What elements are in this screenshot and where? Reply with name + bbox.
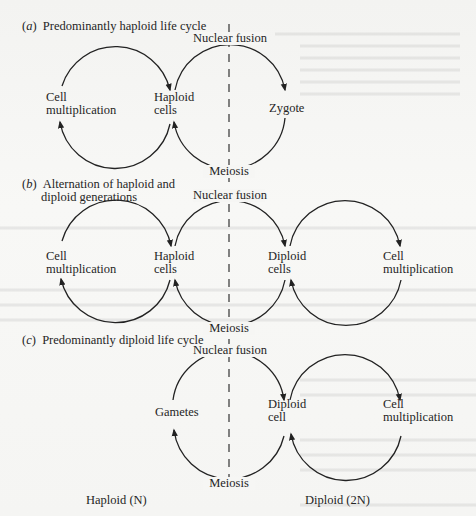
panel-c-cycle1-bottom-arrow	[174, 430, 284, 479]
panel-b-node-cell-multiplication-right: Cell multiplication	[383, 250, 453, 276]
panel-c-node-gametes: Gametes	[155, 406, 199, 419]
panel-c-nuclear-fusion-label: Nuclear fusion	[193, 344, 265, 357]
panel-b-node-cell-multiplication-left: Cell multiplication	[46, 250, 116, 276]
panel-b-cycle2-bottom-arrow	[175, 280, 285, 325]
diploid-region-label: Diploid (2N)	[305, 494, 370, 507]
node-line: cells	[268, 263, 306, 276]
panel-a-cycle1-bottom-arrow	[60, 122, 170, 169]
node-line: multiplication	[46, 263, 116, 276]
panel-a-meiosis-label: Meiosis	[203, 165, 255, 178]
panel-a-node-zygote: Zygote	[269, 102, 304, 115]
panel-c-cycle2-bottom-arrow	[291, 434, 401, 481]
panel-a-marker: a	[26, 19, 32, 33]
node-line: cells	[154, 104, 194, 117]
node-line: Gametes	[155, 406, 199, 419]
panel-b-cycle3-bottom-arrow	[291, 280, 401, 325]
panel-b-node-diploid-cells: Diploid cells	[268, 250, 306, 276]
panel-c-meiosis-label: Meiosis	[203, 477, 255, 490]
panel-a-node-haploid-cells: Haploid cells	[154, 91, 194, 117]
panel-c-cycle2-top-arrow	[290, 355, 400, 400]
panel-c-node-diploid-cell: Diploid cell	[268, 398, 306, 424]
panel-a-cycle1-top-arrow	[62, 47, 170, 90]
panel-b-nuclear-fusion-label: Nuclear fusion	[193, 189, 265, 202]
panel-c-node-cell-multiplication: Cell multiplication	[383, 398, 453, 424]
panel-c-marker: c	[26, 333, 32, 347]
panel-b-title-line1: Alternation of haploid and	[43, 177, 175, 191]
node-line: cells	[154, 263, 194, 276]
node-line: Zygote	[269, 102, 304, 115]
panel-b-cycle1-top-arrow	[62, 200, 171, 246]
panel-a-title: (a) Predominantly haploid life cycle	[22, 20, 206, 33]
panel-b-title: (b) Alternation of haploid and diploid g…	[22, 178, 175, 204]
haploid-region-label: Haploid (N)	[86, 494, 147, 507]
node-line: multiplication	[46, 104, 116, 117]
node-line: cell	[268, 411, 306, 424]
panel-a-cycle2-top-arrow	[175, 45, 285, 90]
panel-b-cycle1-bottom-arrow	[61, 279, 170, 323]
panel-b-node-haploid-cells: Haploid cells	[154, 250, 194, 276]
panel-b-title-line2: diploid generations	[22, 191, 175, 204]
node-line: multiplication	[383, 263, 453, 276]
panel-b-meiosis-label: Meiosis	[203, 322, 255, 335]
panel-b-cycle2-top-arrow	[175, 201, 285, 246]
panel-b-cycle3-top-arrow	[290, 201, 400, 246]
panel-c-title: (c) Predominantly diploid life cycle	[22, 334, 204, 347]
node-line: multiplication	[383, 411, 453, 424]
panel-c-title-text: Predominantly diploid life cycle	[42, 333, 203, 347]
panel-a-nuclear-fusion-label: Nuclear fusion	[193, 32, 265, 45]
panel-a-node-cell-multiplication: Cell multiplication	[46, 91, 116, 117]
panel-b-marker: b	[26, 177, 32, 191]
panel-a-title-text: Predominantly haploid life cycle	[43, 19, 207, 33]
